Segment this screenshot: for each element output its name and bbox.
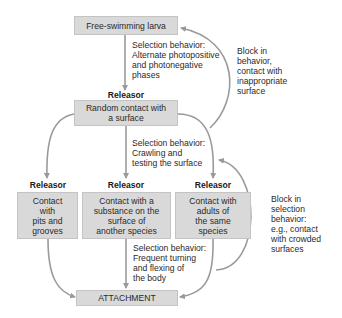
releasor-label-adults: Releasor bbox=[191, 180, 235, 190]
releasor-label-pits: Releasor bbox=[26, 180, 70, 190]
node-free-swimming-larva: Free-swimming larva bbox=[74, 16, 178, 35]
node-label: Random contact with a surface bbox=[86, 103, 166, 123]
node-attachment: ATTACHMENT bbox=[76, 290, 178, 306]
node-label: Contact with adults of the same species bbox=[189, 196, 236, 236]
node-label: Contact with a substance on the surface … bbox=[94, 196, 159, 236]
annotation-block-inappropriate: Block in behavior, contact with inapprop… bbox=[237, 46, 287, 96]
annotation-selection-photo: Selection behavior: Alternate photoposit… bbox=[132, 40, 219, 80]
annotation-selection-crawling: Selection behavior: Crawling and testing… bbox=[132, 138, 205, 168]
arrow-pits-to-attachment bbox=[48, 239, 75, 297]
node-random-contact: Random contact with a surface bbox=[74, 100, 178, 126]
annotation-selection-turning: Selection behavior: Frequent turning and… bbox=[133, 243, 206, 283]
node-pits-grooves: Contact with pits and grooves bbox=[17, 192, 78, 239]
arrow-random-to-pits bbox=[47, 114, 74, 178]
annotation-block-crowded: Block in selection behavior: e.g., conta… bbox=[271, 194, 321, 254]
node-substance-other-species: Contact with a substance on the surface … bbox=[82, 192, 171, 239]
releasor-label-substance: Releasor bbox=[104, 180, 148, 190]
node-label: Free-swimming larva bbox=[86, 21, 166, 31]
releasor-label-random: Releasor bbox=[104, 90, 148, 100]
node-label: Contact with pits and grooves bbox=[32, 196, 63, 236]
node-label: ATTACHMENT bbox=[98, 293, 155, 303]
node-adults-same-species: Contact with adults of the same species bbox=[175, 192, 251, 239]
